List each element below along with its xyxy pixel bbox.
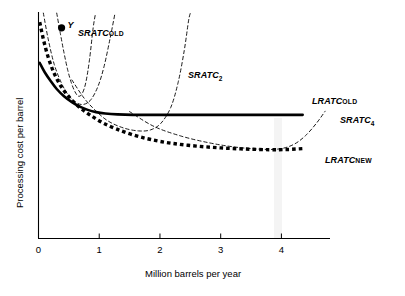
annotation-label-y: Y <box>68 20 74 30</box>
chart-annotation-markers <box>58 24 65 31</box>
curve-label-sratc-old: SRATCOLD <box>78 28 124 38</box>
curve-label-sratc-2-sub: 2 <box>219 75 223 82</box>
curve-label-lratc-old-main: LRATC <box>312 96 342 106</box>
curve-label-sratc-old-sub: OLD <box>109 30 124 37</box>
x-tick-label-3: 3 <box>213 244 229 255</box>
curve-label-lratc-new-main: LRATC <box>325 155 355 165</box>
curve-label-sratc-old-main: SRATC <box>78 28 109 38</box>
curve-label-lratc-old: LRATCOLD <box>312 96 357 106</box>
curve-label-sratc-4: SRATC4 <box>340 115 375 127</box>
x-tick-label-1: 1 <box>91 244 107 255</box>
curve-label-lratc-old-sub: OLD <box>342 98 357 105</box>
x-tick-label-2: 2 <box>152 244 168 255</box>
x-axis-title: Million barrels per year <box>145 268 241 279</box>
y-axis-title: Processing cost per barrel <box>14 98 25 208</box>
chart-figure: Y SRATCOLD SRATC2 LRATCOLD SRATC4 LRATCN… <box>0 0 405 296</box>
curve-label-lratc-new: LRATCNEW <box>325 155 372 165</box>
annotation-marker-y <box>58 24 65 31</box>
curve-label-sratc-4-sub: 4 <box>371 120 375 127</box>
reference-band-at-4 <box>274 118 282 238</box>
chart-plot-area <box>0 0 405 296</box>
x-tick-label-4: 4 <box>273 244 289 255</box>
curve-label-lratc-new-sub: NEW <box>355 157 371 164</box>
curve-label-sratc-2: SRATC2 <box>188 70 223 82</box>
x-tick-label-0: 0 <box>31 244 47 255</box>
curve-label-sratc-4-main: SRATC <box>340 115 371 125</box>
curve-label-sratc-2-main: SRATC <box>188 70 219 80</box>
